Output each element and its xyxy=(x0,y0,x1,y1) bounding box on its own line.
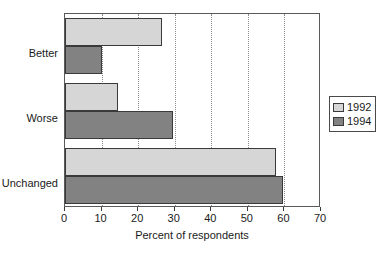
category-label-worse: Worse xyxy=(0,112,58,124)
category-label-unchanged: Unchanged xyxy=(0,177,58,189)
x-tick-label: 20 xyxy=(122,212,152,225)
x-axis-title: Percent of respondents xyxy=(64,229,320,242)
legend-item-1994: 1994 xyxy=(333,114,371,128)
gridline xyxy=(284,14,285,206)
bar-worse-1992 xyxy=(65,83,118,111)
legend-item-1992: 1992 xyxy=(333,100,371,114)
legend-label-1992: 1992 xyxy=(347,101,371,113)
x-tick-mark xyxy=(320,207,321,211)
legend-label-1994: 1994 xyxy=(347,115,371,127)
x-tick-label: 40 xyxy=(195,212,225,225)
bar-chart: Better Worse Unchanged 010203040506070 P… xyxy=(0,0,380,257)
category-label-better: Better xyxy=(0,47,58,59)
plot-area xyxy=(64,13,320,207)
x-tick-label: 70 xyxy=(305,212,335,225)
bar-better-1992 xyxy=(65,18,162,46)
x-tick-label: 10 xyxy=(86,212,116,225)
x-tick-label: 30 xyxy=(159,212,189,225)
x-tick-mark xyxy=(210,207,211,211)
x-tick-label: 0 xyxy=(49,212,79,225)
x-tick-mark xyxy=(64,207,65,211)
bar-better-1994 xyxy=(65,46,102,74)
x-tick-label: 50 xyxy=(232,212,262,225)
x-tick-mark xyxy=(101,207,102,211)
x-tick-label: 60 xyxy=(268,212,298,225)
x-tick-mark xyxy=(283,207,284,211)
bar-unchanged-1994 xyxy=(65,176,283,204)
x-tick-mark xyxy=(174,207,175,211)
legend: 1992 1994 xyxy=(329,96,376,132)
x-tick-mark xyxy=(137,207,138,211)
legend-swatch-icon-1992 xyxy=(333,103,344,112)
bar-worse-1994 xyxy=(65,111,173,139)
legend-swatch-icon-1994 xyxy=(333,117,344,126)
x-tick-mark xyxy=(247,207,248,211)
bar-unchanged-1992 xyxy=(65,148,276,176)
